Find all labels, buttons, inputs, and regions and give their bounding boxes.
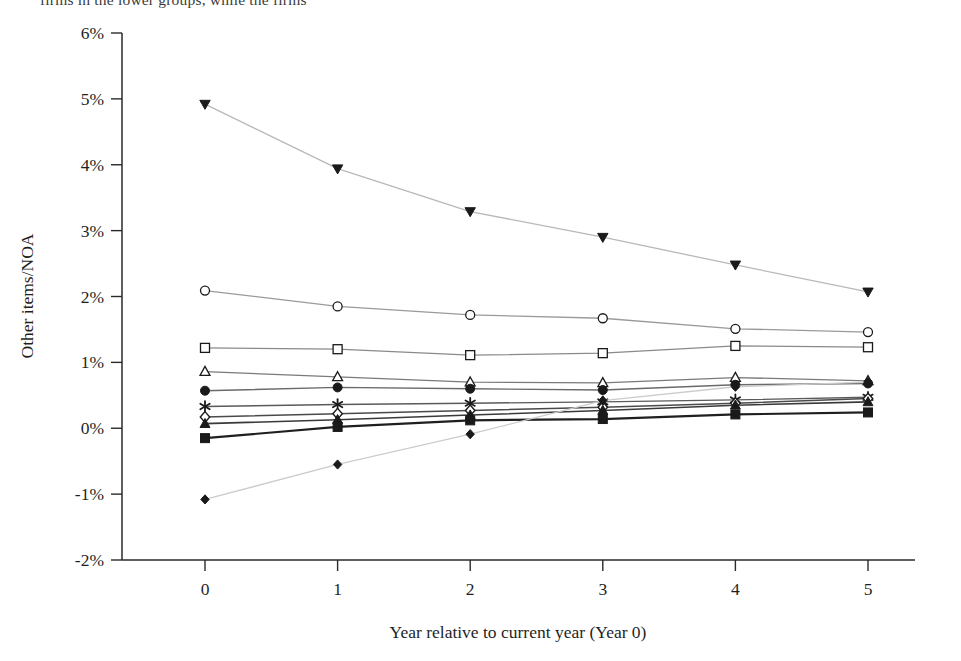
data-point-marker — [333, 422, 342, 431]
data-point-marker — [731, 341, 740, 350]
y-tick-label: 3% — [81, 221, 104, 241]
figure-root: firms in the lower groups, while the fir… — [0, 0, 961, 661]
data-point-marker — [333, 345, 342, 354]
y-tick-label: -1% — [75, 484, 104, 504]
y-tick-label: 2% — [81, 287, 104, 307]
axes-group — [122, 33, 915, 560]
series-4 — [200, 366, 873, 386]
data-point-marker — [731, 410, 740, 419]
data-point-marker — [598, 415, 607, 424]
data-point-marker — [201, 343, 210, 352]
series-line — [205, 104, 868, 292]
series-3 — [201, 341, 873, 359]
data-point-marker — [864, 343, 873, 352]
data-point-marker — [598, 314, 607, 323]
x-axis-ticks: 012345 — [201, 560, 873, 599]
y-tick-label: 0% — [81, 418, 104, 438]
data-point-marker — [200, 366, 210, 375]
y-tick-label: 5% — [81, 89, 104, 109]
line-chart: 6%5%4%3%2%1%0%-1%-2% 012345 Other items/… — [0, 0, 961, 661]
y-tick-label: 6% — [81, 23, 104, 43]
data-point-marker — [864, 328, 873, 337]
data-point-marker — [333, 460, 341, 469]
x-tick-label: 0 — [201, 579, 210, 599]
x-tick-label: 5 — [864, 579, 873, 599]
data-point-marker — [466, 384, 475, 393]
data-point-marker — [201, 495, 209, 504]
x-tick-label: 4 — [731, 579, 740, 599]
y-tick-label: 4% — [81, 155, 104, 175]
data-point-marker — [731, 324, 740, 333]
x-axis-label: Year relative to current year (Year 0) — [390, 622, 647, 642]
series-7 — [200, 393, 872, 422]
data-point-marker — [201, 434, 210, 443]
data-point-marker — [598, 349, 607, 358]
data-point-marker — [200, 100, 210, 109]
series-5 — [201, 379, 873, 395]
data-point-marker — [598, 386, 607, 395]
y-tick-label: -2% — [75, 550, 104, 570]
series-line — [205, 412, 868, 438]
series-line — [205, 291, 868, 333]
data-series-group — [200, 100, 873, 504]
y-axis-label: Other items/NOA — [17, 233, 37, 358]
data-point-marker — [333, 383, 342, 392]
data-point-marker — [333, 302, 342, 311]
data-point-marker — [466, 351, 475, 360]
data-point-marker — [466, 310, 475, 319]
x-tick-label: 2 — [466, 579, 475, 599]
data-point-marker — [466, 416, 475, 425]
series-line — [205, 346, 868, 355]
data-point-marker — [201, 286, 210, 295]
series-10 — [201, 378, 872, 504]
data-point-marker — [466, 430, 474, 439]
series-line — [205, 383, 868, 390]
y-tick-label: 1% — [81, 352, 104, 372]
series-1 — [200, 100, 873, 297]
data-point-marker — [201, 386, 210, 395]
data-point-marker — [863, 288, 873, 297]
series-2 — [201, 286, 873, 337]
x-tick-label: 1 — [333, 579, 342, 599]
series-line — [205, 372, 868, 383]
x-tick-label: 3 — [598, 579, 607, 599]
data-point-marker — [864, 408, 873, 417]
y-axis-ticks: 6%5%4%3%2%1%0%-1%-2% — [75, 23, 122, 570]
